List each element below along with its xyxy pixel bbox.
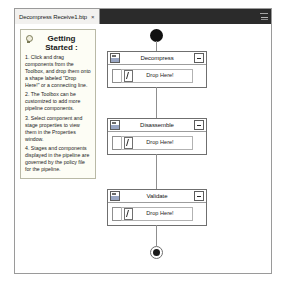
drop-here-target[interactable]: Drop Here! (121, 69, 193, 83)
stage-header[interactable]: Decompress (108, 52, 206, 65)
stage-body[interactable]: Drop Here! (108, 65, 206, 87)
collapse-icon[interactable] (194, 191, 204, 201)
getting-started-step: 2. The Toolbox can be customized to add … (25, 91, 91, 112)
connector-stub (112, 69, 121, 83)
connector-line[interactable] (156, 225, 157, 246)
stage-header[interactable]: Disassemble (108, 119, 206, 132)
document-tab-strip: Decompress Receive1.btp × (15, 9, 271, 24)
drop-here-target[interactable]: Drop Here! (121, 136, 193, 150)
getting-started-panel: Getting Started : 1. Click and drag comp… (20, 29, 96, 179)
stage-title: Disassemble (120, 122, 194, 128)
tab-decompress-receive1[interactable]: Decompress Receive1.btp × (15, 9, 100, 24)
pipeline-diagram: Decompress Drop Here! Disassemble (103, 24, 233, 273)
chevron-down-icon (260, 13, 268, 20)
component-drop-icon (124, 208, 133, 220)
lightbulb-icon (25, 35, 32, 43)
stage-body[interactable]: Drop Here! (108, 203, 206, 225)
stage-icon (110, 191, 120, 201)
stage-disassemble[interactable]: Disassemble Drop Here! (107, 118, 207, 155)
getting-started-step: 4. Stages and components displayed in th… (25, 145, 91, 173)
stage-icon (110, 120, 120, 130)
connector-stub (112, 207, 121, 221)
getting-started-step: 3. Select component and stage properties… (25, 115, 91, 143)
connector-stub (112, 136, 121, 150)
tab-overflow-icon[interactable] (257, 9, 271, 24)
stage-body[interactable]: Drop Here! (108, 132, 206, 154)
getting-started-step: 1. Click and drag components from the To… (25, 54, 91, 89)
component-drop-icon (124, 137, 133, 149)
drop-here-target[interactable]: Drop Here! (121, 207, 193, 221)
stage-icon (110, 53, 120, 63)
designer-canvas[interactable]: Getting Started : 1. Click and drag comp… (15, 24, 271, 273)
stage-header[interactable]: Validate (108, 190, 206, 203)
getting-started-title: Getting Started : (34, 34, 91, 52)
close-icon[interactable]: × (90, 14, 96, 20)
stage-title: Decompress (120, 55, 194, 61)
drop-here-label: Drop Here! (136, 211, 192, 217)
drop-here-label: Drop Here! (136, 73, 192, 79)
pipeline-designer-window: Decompress Receive1.btp × Getting Starte… (14, 8, 272, 274)
stage-validate[interactable]: Validate Drop Here! (107, 189, 207, 226)
stage-title: Validate (120, 193, 194, 199)
stage-decompress[interactable]: Decompress Drop Here! (107, 51, 207, 88)
collapse-icon[interactable] (194, 53, 204, 63)
drop-here-label: Drop Here! (136, 140, 192, 146)
tab-label: Decompress Receive1.btp (19, 14, 87, 20)
connector-line[interactable] (156, 154, 157, 189)
end-node[interactable] (150, 246, 163, 259)
component-drop-icon (124, 70, 133, 82)
getting-started-header: Getting Started : (25, 34, 91, 52)
collapse-icon[interactable] (194, 120, 204, 130)
connector-line[interactable] (156, 41, 157, 51)
connector-line[interactable] (156, 87, 157, 118)
